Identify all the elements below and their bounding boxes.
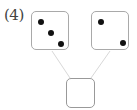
- answer-box[interactable]: [66, 78, 95, 108]
- die-dot: [120, 40, 126, 46]
- left-die: [31, 11, 69, 50]
- die-dot: [38, 19, 44, 25]
- die-dot: [48, 30, 54, 36]
- die-dot: [98, 19, 104, 25]
- die-dot: [58, 41, 64, 47]
- right-die: [91, 11, 129, 50]
